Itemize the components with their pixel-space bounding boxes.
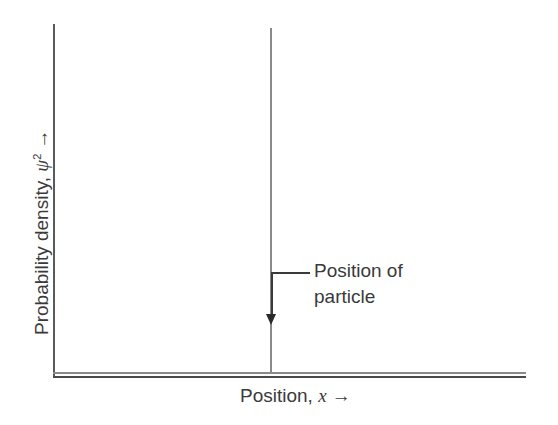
x-axis bbox=[53, 376, 526, 378]
y-axis-label: Probability density, ψ2 → bbox=[24, 129, 55, 335]
x-axis-label: Position, x → bbox=[240, 383, 351, 409]
x-axis-variable: x bbox=[318, 385, 326, 406]
probability-density-figure: Position of particle Position, x → Proba… bbox=[0, 0, 558, 425]
y-axis-variable: ψ bbox=[31, 160, 52, 172]
x-axis-upper-line bbox=[53, 372, 526, 374]
annotation-pointer-line bbox=[271, 272, 273, 316]
arrow-up-icon: → bbox=[31, 129, 52, 153]
annotation-leader-line bbox=[272, 272, 310, 274]
annotation-line-2: particle bbox=[314, 284, 403, 310]
y-axis-superscript: 2 bbox=[31, 154, 43, 160]
y-axis-label-text: Probability density, bbox=[31, 172, 52, 335]
arrow-right-icon: → bbox=[327, 385, 351, 406]
x-axis-label-text: Position, bbox=[240, 385, 318, 406]
annotation-line-1: Position of bbox=[314, 258, 403, 284]
annotation-position-of-particle: Position of particle bbox=[314, 258, 403, 310]
arrow-down-icon bbox=[266, 314, 276, 325]
